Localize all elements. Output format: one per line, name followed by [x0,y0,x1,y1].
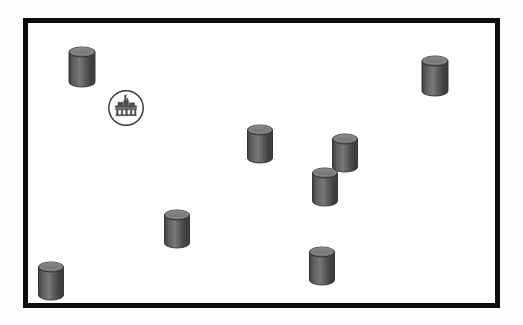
diagram-canvas [0,0,523,325]
storage-tank-center-right[interactable] [333,134,358,172]
storage-tank-mid-right[interactable] [313,168,338,206]
storage-tank-lower-center[interactable] [165,210,190,248]
industrial-facility-badge[interactable] [107,89,145,127]
map-surface [28,23,495,303]
storage-tank-center[interactable] [248,125,273,163]
storage-tank-bottom-left[interactable] [39,262,64,300]
map-boundary-frame [23,18,500,308]
storage-tank-lower-right[interactable] [310,247,335,285]
storage-tank-upper-left[interactable] [69,47,95,87]
storage-tank-upper-right[interactable] [422,56,448,96]
